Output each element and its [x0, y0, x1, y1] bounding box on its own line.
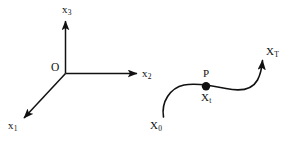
figure-canvas: x3 x2 x1 O X0 XT P Xt [0, 0, 297, 142]
trajectory-start-label: X0 [150, 120, 162, 131]
x-1-axis-line [24, 74, 66, 119]
x-2-axis-label: x2 [142, 68, 151, 79]
x-1-axis-label: x1 [8, 120, 17, 131]
trajectory-curve [163, 61, 262, 118]
trajectory-point-marker [202, 82, 210, 90]
origin-label: O [51, 62, 59, 74]
x-3-axis-label: x3 [62, 4, 71, 15]
trajectory-point-name-label: P [203, 68, 209, 79]
trajectory-end-label: XT [266, 46, 279, 57]
trajectory-point-state-label: Xt [201, 92, 211, 103]
